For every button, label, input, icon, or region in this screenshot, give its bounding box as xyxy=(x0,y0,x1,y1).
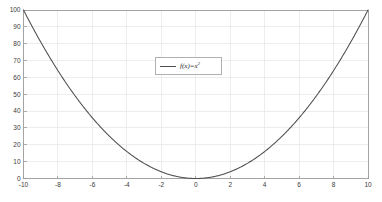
legend[interactable]: f(x)=x2 xyxy=(155,57,222,75)
legend-line-sample xyxy=(160,66,176,67)
figure-background xyxy=(0,0,382,202)
x-tick-label: -8 xyxy=(55,181,61,188)
y-tick-label: 60 xyxy=(13,74,21,81)
plot-area: -10-8-6-4-20246810 010203040506070809010… xyxy=(0,0,382,202)
y-tick-label: 0 xyxy=(17,175,21,182)
y-tick-label: 20 xyxy=(13,141,21,148)
y-tick-label: 40 xyxy=(13,107,21,114)
x-tick-label: -6 xyxy=(90,181,96,188)
x-tick-label: 0 xyxy=(194,181,198,188)
x-tick-label: -10 xyxy=(19,181,29,188)
x-tick-label: 2 xyxy=(228,181,232,188)
x-tick-label: 10 xyxy=(364,181,372,188)
y-tick-label: 50 xyxy=(13,91,21,98)
y-tick-label: 30 xyxy=(13,124,21,131)
x-tick-label: 8 xyxy=(332,181,336,188)
x-tick-label: 4 xyxy=(263,181,267,188)
y-tick-label: 70 xyxy=(13,57,21,64)
y-tick-label: 100 xyxy=(10,6,21,13)
y-tick-label: 10 xyxy=(13,158,21,165)
x-tick-label: -2 xyxy=(158,181,164,188)
figure-canvas: -10-8-6-4-20246810 010203040506070809010… xyxy=(0,0,382,202)
x-tick-label: 6 xyxy=(297,181,301,188)
y-tick-label: 80 xyxy=(13,40,21,47)
x-tick-label: -4 xyxy=(124,181,130,188)
legend-label: f(x)=x2 xyxy=(180,63,200,70)
y-tick-label: 90 xyxy=(13,23,21,30)
